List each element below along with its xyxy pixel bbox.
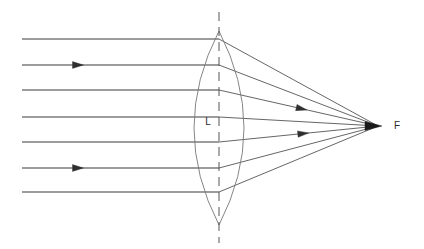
refracted-rays-group bbox=[219, 39, 378, 192]
focal-point-arrowhead bbox=[365, 122, 382, 131]
ray-direction-arrow-icon bbox=[297, 131, 308, 137]
incident-rays-group bbox=[22, 39, 219, 192]
refracted-ray-4 bbox=[219, 117, 378, 126]
ray-direction-arrow-icon bbox=[296, 104, 307, 110]
optics-diagram-svg: L F bbox=[0, 0, 424, 249]
focal-point-label: F bbox=[394, 120, 400, 131]
ray-direction-arrow-icon bbox=[73, 165, 84, 172]
refracted-ray-1 bbox=[219, 39, 378, 126]
ray-direction-arrow-icon bbox=[73, 62, 84, 69]
focal-point-marker bbox=[365, 122, 382, 131]
lens-label: L bbox=[205, 116, 211, 127]
ray-diagram-canvas: L F bbox=[0, 0, 424, 249]
